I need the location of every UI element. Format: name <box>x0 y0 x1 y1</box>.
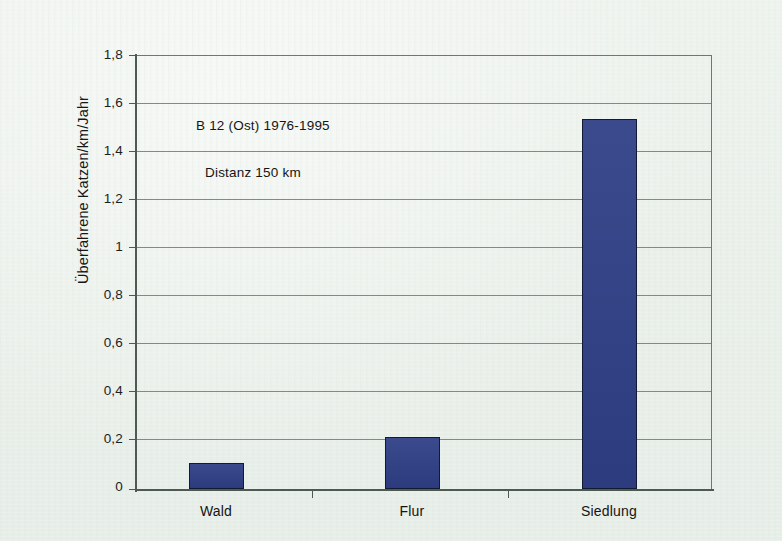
x-tick-mark <box>312 490 313 498</box>
bar-wald <box>189 463 244 489</box>
y-tick-label: 0,4 <box>83 383 123 398</box>
y-tick-label: 0 <box>83 479 123 494</box>
annotation-route-years: B 12 (Ost) 1976-1995 <box>196 118 330 133</box>
x-tick-mark <box>508 490 509 498</box>
x-category-label-siedlung: Siedlung <box>581 503 637 519</box>
y-axis-tick-labels: 1,8 1,6 1,4 1,2 1 0,8 0,6 0,4 0,2 0 <box>78 0 123 557</box>
y-tick-label: 0,6 <box>83 335 123 350</box>
y-tick-label: 1,4 <box>83 143 123 158</box>
y-tick-label: 1,2 <box>83 191 123 206</box>
gridline-1-6 <box>137 103 711 104</box>
y-tick-label: 1,8 <box>83 47 123 62</box>
y-tick-label: 1,6 <box>83 95 123 110</box>
x-axis-line <box>136 489 714 491</box>
chart-page: Überfahrene Katzen/km/Jahr 1,8 1,6 1,4 1… <box>0 0 782 557</box>
x-category-label-wald: Wald <box>200 503 232 519</box>
y-axis-line <box>135 54 137 492</box>
y-tick-label: 1 <box>83 239 123 254</box>
x-category-label-flur: Flur <box>400 503 425 519</box>
bar-flur <box>385 437 440 489</box>
y-tick-label: 0,8 <box>83 287 123 302</box>
y-tick-label: 0,2 <box>83 431 123 446</box>
annotation-distance: Distanz 150 km <box>205 165 301 180</box>
bar-siedlung <box>582 119 637 489</box>
